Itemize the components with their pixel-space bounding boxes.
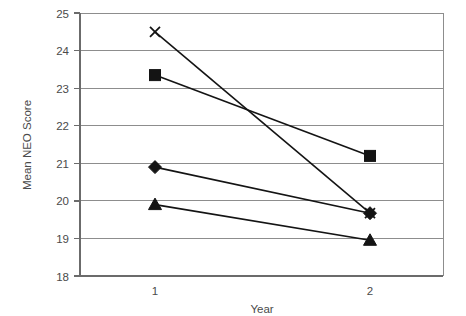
marker-square-year1	[150, 70, 161, 81]
x-tick-label-1: 1	[152, 285, 158, 297]
marker-square-year2	[365, 150, 376, 161]
y-tick-label-20: 20	[56, 195, 69, 207]
y-tick-label-22: 22	[56, 120, 69, 132]
line-chart: 25 24 23 22 21 20 19 18 1 2 Year Mean NE…	[0, 0, 466, 316]
y-tick-label-24: 24	[56, 45, 69, 57]
y-axis-title: Mean NEO Score	[21, 100, 33, 190]
x-axis-title: Year	[250, 303, 273, 315]
y-tick-label-25: 25	[56, 8, 69, 20]
y-tick-label-21: 21	[56, 158, 69, 170]
y-tick-label-23: 23	[56, 83, 69, 95]
y-tick-label-19: 19	[56, 233, 69, 245]
plot-area-background	[80, 13, 443, 276]
x-tick-label-2: 2	[367, 285, 373, 297]
y-axis-ticks	[74, 13, 80, 276]
y-tick-label-18: 18	[56, 271, 69, 283]
chart-container: 25 24 23 22 21 20 19 18 1 2 Year Mean NE…	[0, 0, 466, 316]
